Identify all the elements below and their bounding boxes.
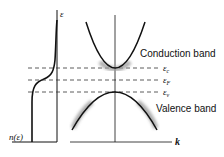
- dos-curve: [32, 20, 57, 142]
- k-axis-label: k: [175, 136, 180, 147]
- conduction-band-curve: [86, 22, 145, 68]
- band-diagram: ε n(ε) εc εF εv k Conduction band Valenc…: [0, 0, 224, 157]
- valence-band-label: Valence band: [156, 103, 216, 114]
- dos-plot: ε n(ε): [9, 9, 64, 142]
- fermi-level-label: εF: [163, 75, 171, 86]
- band-plot: k Conduction band Valence band: [70, 15, 216, 147]
- energy-levels: εc εF εv: [28, 63, 171, 98]
- dos-axis-label: n(ε): [9, 132, 23, 142]
- energy-axis-label: ε: [60, 9, 64, 19]
- valence-band-curve: [72, 92, 157, 130]
- conduction-edge-label: εc: [163, 63, 170, 74]
- conduction-band-label: Conduction band: [140, 48, 216, 59]
- valence-edge-label: εv: [163, 87, 170, 98]
